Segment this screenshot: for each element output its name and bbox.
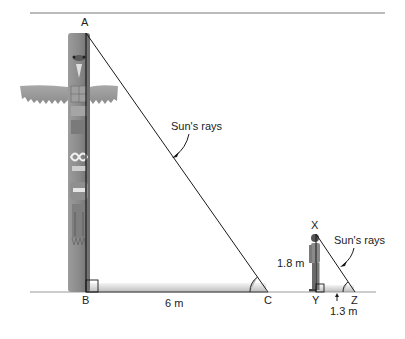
point-label-Y: Y (312, 295, 319, 306)
point-label-X: X (311, 220, 318, 231)
sun-rays-arrow-1 (175, 134, 189, 156)
sun-rays-label-2: Sun's rays (334, 235, 385, 246)
sun-rays-arrow-2 (343, 248, 354, 265)
person-shadow-length-label: 1.3 m (330, 306, 358, 317)
person-shadow (316, 285, 354, 292)
point-label-B: B (82, 295, 89, 306)
person-figure (309, 234, 320, 292)
shadow-length-label-BC: 6 m (165, 298, 183, 309)
point-label-C: C (264, 295, 272, 306)
pole-shadow (86, 283, 266, 292)
point-label-A: A (81, 17, 88, 28)
totem-pole (68, 33, 90, 292)
sun-rays-label-1: Sun's rays (171, 121, 222, 132)
person-height-label: 1.8 m (277, 258, 305, 269)
similar-triangles-diagram (0, 0, 405, 339)
sun-ray-line-AC (86, 33, 268, 292)
